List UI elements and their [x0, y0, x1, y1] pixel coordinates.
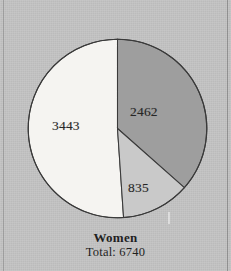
- pie-label-3443: 3443: [52, 118, 80, 134]
- pie-label-2462: 2462: [130, 104, 158, 120]
- pie-chart-figure: 2462 3443 835 Women Total: 6740: [0, 0, 231, 271]
- pie-label-835: 835: [128, 180, 149, 196]
- chart-caption: Women Total: 6740: [0, 230, 231, 260]
- caption-total: Total: 6740: [0, 245, 231, 260]
- caption-title: Women: [0, 230, 231, 245]
